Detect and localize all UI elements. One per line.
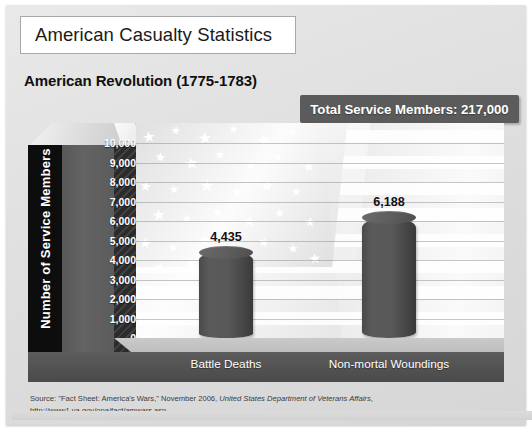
gridline [136,319,504,320]
y-axis-tick-label: 6,000 [56,215,136,227]
flag-star-icon: ★ [167,240,179,253]
y-axis-tick-label: 4,000 [56,254,136,266]
slide-screenshot: American Casualty Statistics American Re… [0,0,532,437]
flag-star-icon: ★ [242,156,256,172]
flag-star-icon: ★ [228,123,240,136]
y-axis-tick-label: 2,000 [56,293,136,305]
source-publisher: United States Department of Veterans Aff… [219,394,370,403]
y-axis-tick-label: 7,000 [56,196,136,208]
chart-heading: American Revolution (1775-1783) [24,72,257,89]
y-axis-tick-label: 3,000 [56,274,136,286]
gridline [136,182,504,183]
flag-star-icon: ★ [255,131,272,149]
slide-footer-strip [12,411,532,420]
flag-star-icon: ★ [213,148,225,161]
gridline [136,299,504,300]
flag-star-icon: ★ [139,178,154,194]
gridline [136,202,504,203]
slide-title-box: American Casualty Statistics [20,16,296,54]
flag-star-icon: ★ [199,177,215,195]
total-service-members-callout: Total Service Members: 217,000 [300,95,519,123]
y-axis-tick-label: 9,000 [56,157,136,169]
y-axis-tick-label: 10,000 [56,137,136,149]
flag-star-icon: ★ [197,131,212,148]
y-axis-tick-label: 1,000 [56,313,136,325]
y-axis-title: Number of Service Members [38,130,53,348]
flag-star-icon: ★ [169,124,181,137]
presentation-slide: American Casualty Statistics American Re… [6,5,526,425]
flag-star-icon: ★ [301,158,316,173]
flag-star-icon: ★ [168,182,180,195]
y-axis-tick-label: 8,000 [56,176,136,188]
flag-star-icon: ★ [181,212,194,225]
bar-value-label: 4,435 [181,230,271,244]
gridline [136,221,504,222]
gridline [136,163,504,164]
flag-star-icon: ★ [138,234,153,250]
bar-value-label: 6,188 [344,195,434,209]
bar-top-ellipse [199,246,253,259]
source-prefix: Source: "Fact Sheet: America's Wars," No… [30,394,219,403]
flag-star-icon: ★ [183,254,198,271]
flag-star-icon: ★ [291,186,303,199]
x-axis-category-label: Non-mortal Woundings [299,357,479,371]
flag-star-icon: ★ [260,177,274,193]
source-suffix: , [371,394,373,403]
flag-star-icon: ★ [307,250,321,265]
flag-star-icon: ★ [183,155,199,173]
gridline [136,260,504,261]
gridline [136,280,504,281]
bar-top-ellipse [362,211,416,224]
x-axis-category-label: Battle Deaths [136,357,316,371]
y-axis-tick-label: 5,000 [56,235,136,247]
flag-star-icon: ★ [241,213,256,230]
flag-star-icon: ★ [153,260,166,274]
flag-star-icon: ★ [273,206,286,220]
gridline [136,143,504,144]
total-service-members-value: Total Service Members: 217,000 [310,102,508,117]
bar-chart: Number of Service Members ★★★★★★★★★★★★★★… [28,123,504,385]
flag-star-icon: ★ [288,243,300,256]
bar-2 [362,217,416,338]
flag-star-icon: ★ [287,126,299,139]
flag-star-icon: ★ [230,184,244,199]
page-title: American Casualty Statistics [35,24,272,46]
bar-1 [199,252,253,338]
flag-star-icon: ★ [212,205,226,220]
